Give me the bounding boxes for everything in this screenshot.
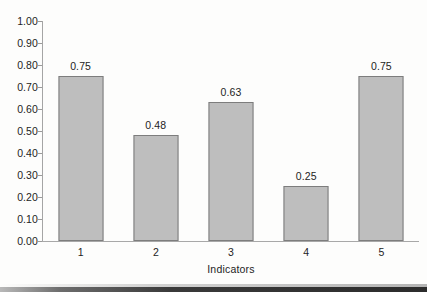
y-axis-tick-mark — [37, 109, 42, 110]
x-axis-tick-labels: 12345 — [43, 247, 419, 261]
bar[interactable] — [208, 102, 253, 241]
bar-group: 0.75 — [43, 21, 118, 241]
page-bottom-edge — [0, 287, 427, 292]
y-axis-tick-label: 0.60 — [4, 104, 38, 115]
bar-value-label: 0.63 — [221, 87, 242, 98]
bar-value-label: 0.48 — [145, 120, 166, 131]
y-axis-tick-label: 0.40 — [4, 148, 38, 159]
x-axis-tick-label: 4 — [303, 247, 309, 258]
y-axis-tick-label: 0.80 — [4, 60, 38, 71]
y-axis-tick-label: 0.30 — [4, 170, 38, 181]
y-axis-tick-label: 0.70 — [4, 82, 38, 93]
bar[interactable] — [133, 135, 178, 241]
y-axis-tick-mark — [37, 131, 42, 132]
y-axis-tick-mark — [37, 197, 42, 198]
x-axis-tick-label: 2 — [153, 247, 159, 258]
y-axis-tick-label: 0.00 — [4, 236, 38, 247]
bar[interactable] — [58, 76, 103, 241]
plot-area: 0.750.480.630.250.75 — [43, 21, 419, 241]
y-axis-tick-mark — [37, 87, 42, 88]
bar[interactable] — [359, 76, 404, 241]
y-axis-tick-label: 0.90 — [4, 38, 38, 49]
bar-value-label: 0.75 — [70, 61, 91, 72]
y-axis-tick-mark — [37, 65, 42, 66]
bar-group: 0.63 — [193, 21, 268, 241]
bar-chart: 1.000.900.800.700.600.500.400.300.200.10… — [0, 0, 427, 278]
bar-value-label: 0.25 — [296, 171, 317, 182]
y-axis-tick-label: 0.10 — [4, 214, 38, 225]
x-axis-tick-label: 3 — [228, 247, 234, 258]
y-axis-tick-labels: 1.000.900.800.700.600.500.400.300.200.10… — [0, 0, 38, 278]
x-axis-tick-label: 5 — [378, 247, 384, 258]
y-axis-tick-mark — [37, 153, 42, 154]
y-axis-tick-mark — [37, 21, 42, 22]
bar[interactable] — [284, 186, 329, 241]
x-axis-tick-label: 1 — [78, 247, 84, 258]
y-axis-tick-mark — [37, 175, 42, 176]
x-axis-title: Indicators — [43, 264, 419, 275]
scanned-page: 1.000.900.800.700.600.500.400.300.200.10… — [0, 0, 427, 292]
y-axis-tick-mark — [37, 219, 42, 220]
bar-group: 0.48 — [118, 21, 193, 241]
y-axis-tick-label: 0.20 — [4, 192, 38, 203]
bar-value-label: 0.75 — [371, 61, 392, 72]
x-axis-line — [42, 241, 419, 242]
y-axis-tick-label: 1.00 — [4, 16, 38, 27]
bar-group: 0.75 — [344, 21, 419, 241]
y-axis-tick-mark — [37, 241, 42, 242]
bar-group: 0.25 — [269, 21, 344, 241]
y-axis-tick-label: 0.50 — [4, 126, 38, 137]
y-axis-tick-mark — [37, 43, 42, 44]
